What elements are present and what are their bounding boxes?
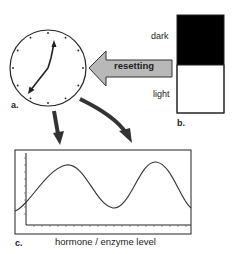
dark-label: dark <box>151 32 169 41</box>
light-label: light <box>153 90 170 99</box>
clock-icon <box>10 30 86 106</box>
panel-c-label: c. <box>15 239 23 248</box>
panel-b-label: b. <box>177 119 185 128</box>
output-arrows <box>53 99 132 145</box>
chart-xlabel: hormone / enzyme level <box>55 237 156 247</box>
light-dark-box <box>177 15 224 113</box>
diagram-canvas <box>0 0 237 254</box>
panel-a-label: a. <box>11 101 19 110</box>
hormone-chart <box>15 150 191 234</box>
resetting-label: resetting <box>114 61 154 71</box>
